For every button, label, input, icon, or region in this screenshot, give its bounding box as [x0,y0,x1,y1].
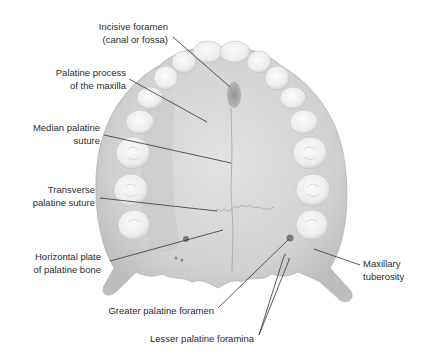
label-greater-palatine-foramen: Greater palatine foramen [90,304,214,317]
label-horizontal-plate: Horizontal plate of palatine bone [5,250,101,276]
label-palatine-process: Palatine process of the maxilla [30,66,126,92]
lesser-palatine-foramen-right-1 [284,254,287,257]
lesser-palatine-foramen-right-2 [288,258,291,261]
hard-palate-diagram: Incisive foramen (canal or fossa) Palati… [0,0,435,364]
label-incisive-foramen: Incisive foramen (canal or fossa) [76,20,168,46]
label-maxillary-tuberosity: Maxillary tuberosity [363,257,433,283]
label-lesser-palatine-foramina: Lesser palatine foramina [128,332,254,345]
lesser-palatine-foramen-left-2 [181,259,184,262]
lesser-palatine-foramen-left-1 [175,257,178,260]
palate-illustration [0,0,435,364]
label-transverse-palatine-suture: Transverse palatine suture [5,183,95,209]
label-median-palatine-suture: Median palatine suture [10,121,100,147]
